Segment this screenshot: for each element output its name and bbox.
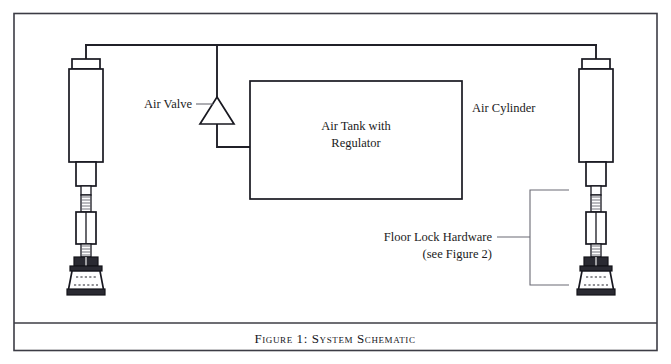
system-schematic-figure: Air Tank with Regulator (0, 0, 671, 364)
floor-lock-label-line2: (see Figure 2) (423, 247, 492, 261)
air-cylinder-label: Air Cylinder (472, 101, 536, 115)
floor-lock-label-line1: Floor Lock Hardware (384, 230, 493, 244)
figure-caption: Figure 1: System Schematic (254, 331, 415, 346)
air-cylinder-right (579, 59, 613, 195)
air-valve-label: Air Valve (144, 97, 192, 111)
floor-lock-hardware-right (577, 195, 615, 295)
air-valve-symbol (200, 97, 234, 124)
figure-container: Air Tank with Regulator (0, 0, 671, 364)
air-cylinder-left (69, 59, 103, 195)
floor-lock-hardware-left (67, 195, 105, 295)
air-tank-label-line2: Regulator (331, 136, 381, 150)
air-tank-label-line1: Air Tank with (321, 119, 391, 133)
floor-lock-bracket (497, 190, 569, 285)
